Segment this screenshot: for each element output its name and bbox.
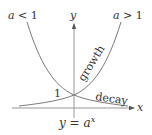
intercept-label: 1 xyxy=(54,87,61,100)
decay-label: decay xyxy=(95,90,130,108)
exponential-function-diagram: a < 1 a > 1 y x 1 growth decay y = ax xyxy=(0,0,152,135)
condition-label-growth: a > 1 xyxy=(113,9,143,22)
x-axis-label: x xyxy=(137,101,144,114)
diagram-svg: a < 1 a > 1 y x 1 growth decay y = ax xyxy=(0,0,152,135)
condition-label-decay: a < 1 xyxy=(8,9,38,22)
equation-caption: y = ax xyxy=(58,115,96,130)
y-axis-label: y xyxy=(69,9,77,22)
growth-label: growth xyxy=(76,43,108,84)
